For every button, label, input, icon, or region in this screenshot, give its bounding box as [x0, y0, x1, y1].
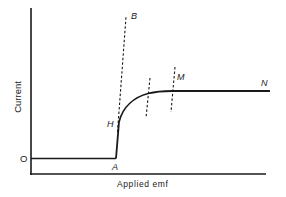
- label-n: N: [261, 78, 268, 88]
- x-axis-label: Applied emf: [117, 179, 169, 189]
- label-h: H: [107, 119, 114, 129]
- dashed-line-m: [171, 67, 175, 112]
- current-emf-diagram: Current Applied emf O B H A M N: [0, 0, 286, 197]
- origin-label: O: [20, 153, 27, 164]
- y-axis-label: Current: [12, 81, 23, 113]
- label-b: B: [131, 11, 137, 21]
- label-m: M: [177, 72, 185, 82]
- label-a: A: [111, 162, 118, 172]
- dashed-line-knee: [146, 78, 150, 118]
- characteristic-curve: [116, 91, 270, 159]
